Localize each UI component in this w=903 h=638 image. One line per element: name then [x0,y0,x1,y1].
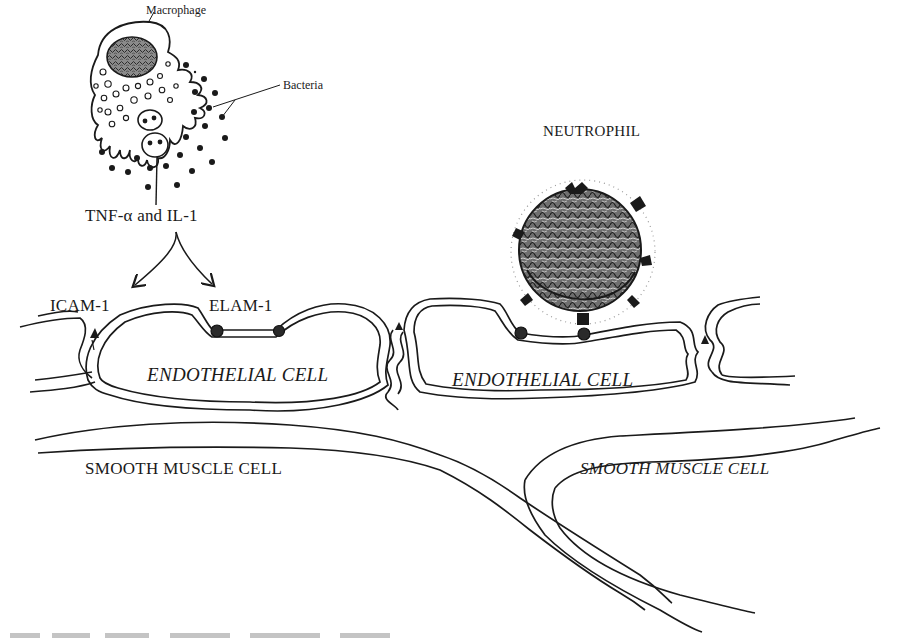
elam-1-marker-bound [578,328,590,340]
label-smooth-muscle-cell-right: SMOOTH MUSCLE CELL [580,460,770,477]
label-elam-1: ELAM-1 [209,297,273,314]
label-icam-1: ICAM-1 [50,297,110,314]
smooth-muscle-layer [35,418,880,632]
figure-canvas: Macrophage Bacteria TNF-α and IL-1 ICAM-… [0,0,903,638]
elam-1-marker [274,326,285,337]
elam-1-marker [211,325,223,337]
bacteria-pointer [213,85,280,117]
label-smooth-muscle-cell-left: SMOOTH MUSCLE CELL [85,460,282,477]
arrow-to-elam [176,232,212,284]
label-cytokines: TNF-α and IL-1 [85,207,198,224]
label-bacteria: Bacteria [283,79,323,91]
label-endothelial-cell-left: ENDOTHELIAL CELL [147,365,328,384]
elam-1-marker [515,327,527,339]
label-macrophage: Macrophage [146,4,206,16]
endothelial-cell-left [86,304,403,411]
diagram-drawing [0,0,903,638]
left-cell-fragment [20,311,95,392]
label-endothelial-cell-right: ENDOTHELIAL CELL [452,370,633,389]
arrow-to-icam [135,232,176,285]
neutrophil-cell [511,180,655,325]
cytokine-release-line [156,157,157,205]
label-neutrophil: NEUTROPHIL [543,124,640,139]
caption-fragment [10,633,390,638]
macrophage-nucleus [107,37,157,77]
icam-1-marker-junction [395,322,403,330]
icam-1-marker-left [90,328,99,338]
